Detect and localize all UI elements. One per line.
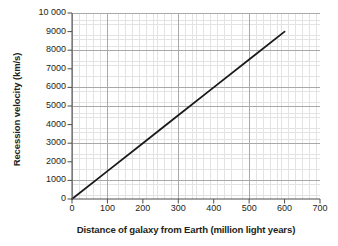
x-tick-label: 100: [87, 203, 127, 213]
y-tick-label: 8000: [6, 44, 66, 54]
y-tick-label: 7000: [6, 63, 66, 73]
x-tick-label: 500: [229, 203, 269, 213]
y-tick-label: 6000: [6, 81, 66, 91]
chart-figure: Recession velocity (km/s) 01000200030004…: [0, 0, 338, 246]
x-tick-label: 600: [265, 203, 305, 213]
x-tick-label: 200: [123, 203, 163, 213]
y-tick-label: 4000: [6, 119, 66, 129]
tick-marks: [68, 13, 321, 204]
x-tick-label: 700: [300, 203, 338, 213]
y-tick-label: 1000: [6, 174, 66, 184]
y-tick-label: 2000: [6, 156, 66, 166]
x-tick-label: 0: [52, 203, 92, 213]
x-tick-label: 400: [194, 203, 234, 213]
x-axis-title: Distance of galaxy from Earth (million l…: [46, 224, 326, 235]
y-tick-label: 3000: [6, 137, 66, 147]
y-tick-label: 10 000: [6, 7, 66, 17]
y-tick-label: 5000: [6, 100, 66, 110]
y-tick-label: 0: [6, 193, 66, 203]
x-tick-label: 300: [158, 203, 198, 213]
y-tick-label: 9000: [6, 26, 66, 36]
